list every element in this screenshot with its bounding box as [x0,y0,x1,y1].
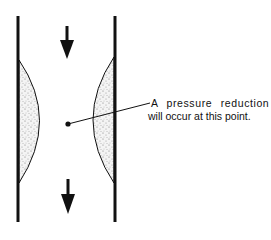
left-constriction [19,60,40,183]
right-constriction [93,57,114,183]
flow-arrow-down-icon [61,179,75,214]
annotation-label: A pressure reduction will occur at this … [151,97,269,123]
flow-arrow-down-icon [60,26,74,59]
annotation-line-1: A pressure reduction [151,97,269,110]
annotation-line-2: will occur at this point. [148,110,269,123]
